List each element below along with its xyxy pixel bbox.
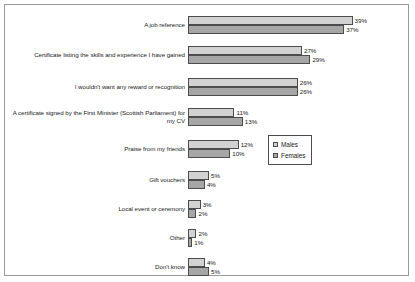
category-label: I wouldn't want any reward or recognitio… <box>11 83 185 91</box>
bar-females <box>188 25 344 34</box>
legend-swatch-males-icon <box>273 142 278 147</box>
bar-females <box>188 238 192 247</box>
category-label: Certificate listing the skills and exper… <box>11 51 185 59</box>
legend-label-females: Females <box>281 152 306 159</box>
chart-bar-group: A certificate signed by the First Minist… <box>5 103 408 131</box>
bar-value-label: 26% <box>300 78 312 87</box>
bar-males <box>188 16 353 25</box>
chart-bar-group: Local event or ceremony3%2% <box>5 195 408 223</box>
bar-pair: 27%29% <box>188 46 325 64</box>
bar-pair: 3%2% <box>188 200 212 218</box>
bar-females <box>188 87 298 96</box>
bar-females <box>188 209 196 218</box>
bar-pair: 4%5% <box>188 258 220 276</box>
legend-item-males: Males <box>273 139 306 150</box>
bar-males <box>188 46 302 55</box>
bar-pair: 2%1% <box>188 229 207 247</box>
chart-plot-area: A job reference39%37%Certificate listing… <box>5 5 408 275</box>
bar-males <box>188 200 201 209</box>
chart-bar-group: Don't know4%5% <box>5 253 408 281</box>
bar-males <box>188 108 234 117</box>
bar-value-label: 11% <box>236 108 248 117</box>
bar-pair: 5%4% <box>188 171 220 189</box>
chart-frame: A job reference39%37%Certificate listing… <box>4 4 409 276</box>
bar-males <box>188 140 239 149</box>
chart-bar-group: Praise from my friends12%10% <box>5 135 408 163</box>
category-label: Other <box>11 234 185 242</box>
chart-legend: Males Females <box>268 135 312 165</box>
legend-label-males: Males <box>281 141 298 148</box>
category-label: A job reference <box>11 21 185 29</box>
bar-value-label: 10% <box>232 149 244 158</box>
bar-value-label: 5% <box>211 171 220 180</box>
legend-item-females: Females <box>273 150 306 161</box>
chart-bar-group: Gift vouchers5%4% <box>5 166 408 194</box>
bar-value-label: 39% <box>355 16 367 25</box>
bar-value-label: 5% <box>211 267 220 276</box>
bar-value-label: 26% <box>300 87 312 96</box>
chart-bar-group: Other2%1% <box>5 224 408 252</box>
bar-value-label: 2% <box>198 229 207 238</box>
bar-males <box>188 171 209 180</box>
bar-females <box>188 267 209 276</box>
bar-males <box>188 258 205 267</box>
bar-pair: 11%13% <box>188 108 257 126</box>
category-label: Don't know <box>11 263 185 271</box>
bar-value-label: 13% <box>245 117 257 126</box>
bar-pair: 12%10% <box>188 140 253 158</box>
bar-value-label: 3% <box>203 200 212 209</box>
bar-value-label: 2% <box>198 209 207 218</box>
bar-value-label: 4% <box>207 258 216 267</box>
category-label: A certificate signed by the First Minist… <box>11 109 185 125</box>
bar-value-label: 29% <box>312 55 324 64</box>
bar-value-label: 1% <box>194 238 203 247</box>
bar-pair: 26%26% <box>188 78 312 96</box>
bar-value-label: 4% <box>207 180 216 189</box>
bar-value-label: 12% <box>241 140 253 149</box>
category-label: Praise from my friends <box>11 145 185 153</box>
bar-males <box>188 229 196 238</box>
legend-swatch-females-icon <box>273 153 278 158</box>
bar-females <box>188 55 310 64</box>
bar-value-label: 27% <box>304 46 316 55</box>
category-label: Gift vouchers <box>11 176 185 184</box>
category-label: Local event or ceremony <box>11 205 185 213</box>
chart-bar-group: A job reference39%37% <box>5 11 408 39</box>
bar-males <box>188 78 298 87</box>
chart-bar-group: I wouldn't want any reward or recognitio… <box>5 73 408 101</box>
bar-females <box>188 149 230 158</box>
bar-pair: 39%37% <box>188 16 367 34</box>
bar-value-label: 37% <box>346 25 358 34</box>
bar-females <box>188 180 205 189</box>
bar-females <box>188 117 243 126</box>
chart-bar-group: Certificate listing the skills and exper… <box>5 41 408 69</box>
